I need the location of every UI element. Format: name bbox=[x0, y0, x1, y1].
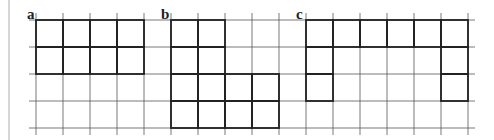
figure-cell bbox=[171, 74, 198, 101]
figure-cell bbox=[63, 47, 90, 74]
figure-cell bbox=[63, 20, 90, 47]
figure-cell bbox=[414, 20, 441, 47]
figure-cell bbox=[441, 47, 468, 74]
figure-label-a: a bbox=[27, 6, 35, 22]
figure-cell bbox=[36, 20, 63, 47]
figure-cell bbox=[360, 20, 387, 47]
figure-cell bbox=[117, 20, 144, 47]
figure-cell bbox=[306, 74, 333, 101]
figure-cell bbox=[225, 74, 252, 101]
figure-label-b: b bbox=[161, 6, 169, 22]
figure-cell bbox=[225, 101, 252, 128]
figure-cell bbox=[90, 47, 117, 74]
figure-b bbox=[171, 20, 279, 128]
figure-cell bbox=[387, 20, 414, 47]
figure-cell bbox=[252, 74, 279, 101]
figure-cell bbox=[117, 47, 144, 74]
figure-a bbox=[36, 20, 144, 74]
figure-cell bbox=[90, 20, 117, 47]
figure-cell bbox=[198, 74, 225, 101]
figure-cell bbox=[36, 47, 63, 74]
figure-cell bbox=[171, 20, 198, 47]
figure-cell bbox=[171, 47, 198, 74]
figure-cell bbox=[306, 47, 333, 74]
figure-cell bbox=[441, 20, 468, 47]
figure-cell bbox=[333, 20, 360, 47]
figure-cell bbox=[252, 101, 279, 128]
figure-cell bbox=[441, 74, 468, 101]
grid-diagram: abc bbox=[0, 0, 494, 140]
figure-cell bbox=[198, 20, 225, 47]
figure-cell bbox=[306, 20, 333, 47]
figure-cell bbox=[198, 47, 225, 74]
figure-cell bbox=[171, 101, 198, 128]
figure-label-c: c bbox=[296, 6, 303, 22]
figure-cell bbox=[198, 101, 225, 128]
